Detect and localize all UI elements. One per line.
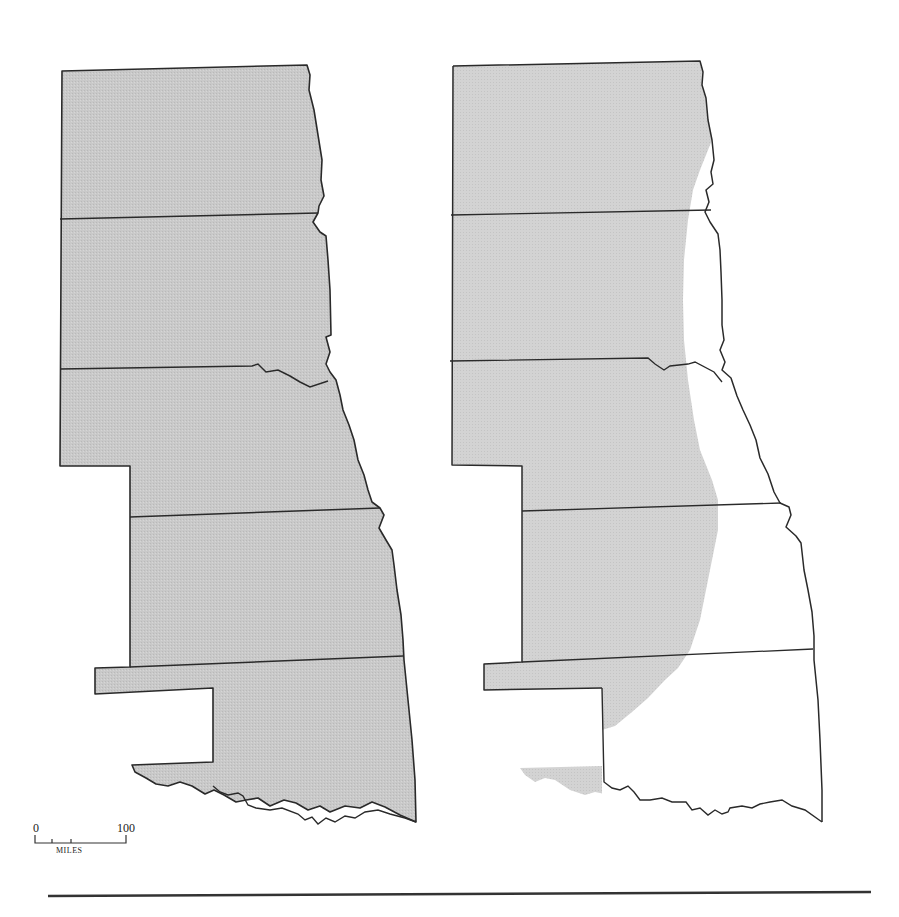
right-map-shaded-region bbox=[440, 55, 720, 900]
scale-unit-label: MILES bbox=[56, 846, 83, 855]
scale-end-label: 100 bbox=[117, 821, 135, 835]
scale-bar-line bbox=[35, 835, 126, 843]
right-map bbox=[440, 55, 822, 900]
bottom-rule bbox=[48, 892, 871, 896]
map-figure: 0 100 MILES bbox=[0, 0, 899, 917]
left-map-region-fill bbox=[60, 65, 416, 822]
scale-start-label: 0 bbox=[33, 821, 39, 835]
scale-bar: 0 100 MILES bbox=[33, 821, 135, 855]
left-map bbox=[60, 65, 416, 824]
